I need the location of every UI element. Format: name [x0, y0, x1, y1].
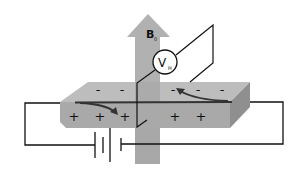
charge-minus: -: [120, 82, 125, 97]
charge-plus: +: [69, 109, 80, 124]
charge-plus: +: [120, 109, 131, 124]
charge-minus: -: [171, 82, 176, 97]
field-subscript: 0: [154, 36, 157, 42]
voltmeter: V H: [153, 50, 177, 74]
voltmeter-subscript: H: [168, 65, 172, 71]
voltmeter-label: V: [158, 56, 167, 70]
charge-plus: +: [170, 109, 181, 124]
battery-icon: [95, 128, 121, 162]
charge-minus: -: [96, 82, 101, 97]
hall-effect-diagram: - - - - - + + + + + V H B 0: [0, 0, 299, 169]
charge-minus: -: [196, 82, 201, 97]
voltmeter-wire-back: [176, 25, 213, 82]
current-path: [75, 102, 232, 103]
charge-plus: +: [196, 109, 207, 124]
charge-plus: +: [95, 109, 106, 124]
charge-minus: -: [220, 82, 225, 97]
